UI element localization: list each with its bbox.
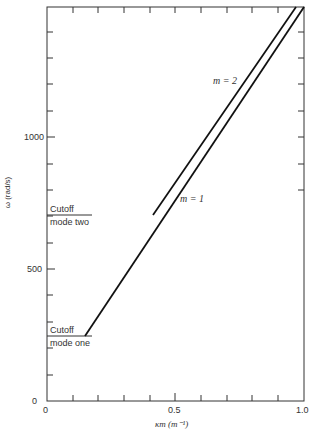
m2-label: m = 2 (213, 75, 237, 86)
y-axis-label: ω (rad/s) (3, 177, 12, 209)
y-tick-0: 0 (32, 396, 37, 406)
x-axis-label: κm (m⁻¹) (155, 419, 188, 429)
cutoff-two-sublabel: mode two (50, 217, 89, 227)
series-m2 (153, 7, 296, 215)
cutoff-one-label: Cutoff (50, 325, 74, 335)
y-tick-1000: 1000 (24, 132, 44, 142)
x-tick-1.0: 1.0 (296, 405, 309, 415)
m1-label: m = 1 (180, 193, 204, 204)
series-m1 (85, 7, 304, 336)
x-tick-0.5: 0.5 (168, 405, 181, 415)
y-tick-500: 500 (27, 264, 42, 274)
x-tick-0: 0 (43, 405, 48, 415)
plot-area (0, 0, 317, 438)
cutoff-two-label: Cutoff (50, 204, 74, 214)
cutoff-one-sublabel: mode one (50, 338, 90, 348)
